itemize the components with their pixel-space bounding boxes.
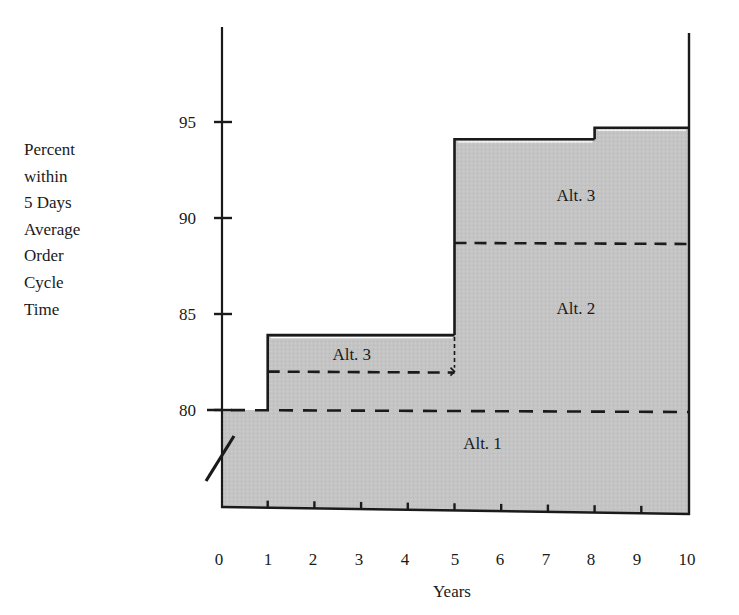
x-tick-label: 0: [215, 550, 224, 569]
x-tick-label: 1: [264, 550, 273, 569]
chart-canvas: 80859095 012345678910 Alt. 1Alt. 3Alt. 2…: [0, 0, 739, 615]
x-axis-label: Years: [433, 582, 471, 601]
annotation-label: Alt. 3: [332, 345, 371, 364]
x-tick-label: 8: [587, 550, 596, 569]
x-tick-label: 5: [451, 550, 460, 569]
x-tick-label: 3: [355, 550, 364, 569]
x-tick-label: 6: [496, 550, 505, 569]
annotation-label: Alt. 1: [463, 434, 502, 453]
x-tick-label: 2: [309, 550, 318, 569]
y-tick-label: 90: [179, 209, 196, 228]
y-ticks: 80859095: [179, 113, 232, 420]
x-tick-label: 10: [679, 550, 696, 569]
y-tick-label: 85: [179, 305, 196, 324]
y-tick-label: 80: [179, 401, 196, 420]
x-tick-label: 9: [633, 550, 642, 569]
annotation-label: Alt. 3: [557, 186, 596, 205]
x-tick-label: 4: [401, 550, 410, 569]
y-tick-label: 95: [179, 113, 196, 132]
x-tick-label: 7: [542, 550, 551, 569]
annotation-label: Alt. 2: [557, 299, 596, 318]
